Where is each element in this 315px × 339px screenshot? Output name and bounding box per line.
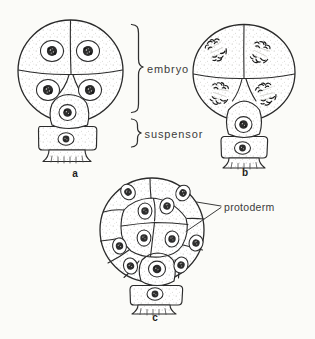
suspensor-label: suspensor [145,128,204,140]
nucleus [77,41,100,62]
panel-a-letter: a [72,168,78,179]
suspensor-a-base [43,150,91,162]
nucleus [59,105,76,121]
nucleus [235,142,251,155]
panel-b-letter: b [242,167,248,178]
nucleus [37,80,60,101]
nucleus [149,261,166,277]
nucleus [58,133,74,146]
nucleus [41,41,64,62]
embryo-label: embryo [147,63,189,75]
nucleus [235,117,252,133]
figure-canvas: a embryo suspensor [0,0,315,339]
panel-c-letter: c [152,312,158,323]
nucleus [138,203,152,219]
embryo-development-diagram: a embryo suspensor [0,0,315,339]
nucleus [137,230,151,246]
nucleus [79,80,102,101]
protoderm-label: protoderm [224,201,275,213]
nucleus [147,288,163,301]
